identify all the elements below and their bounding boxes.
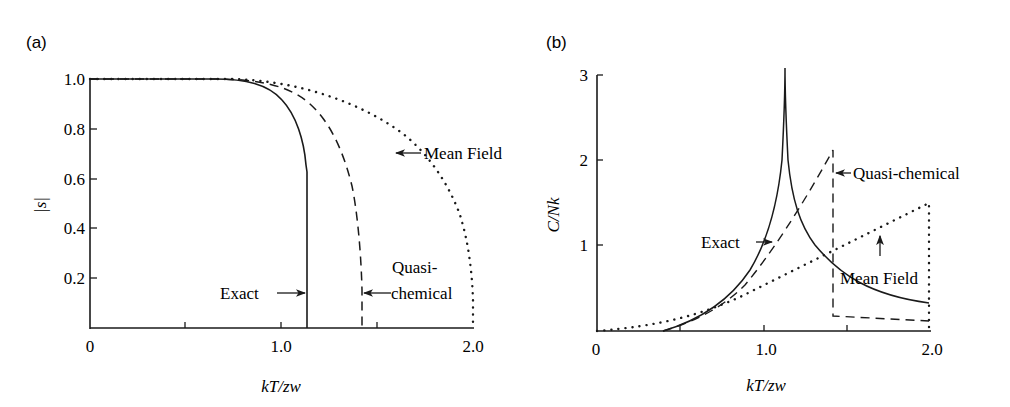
y-axis-label: C/Nk <box>544 197 563 232</box>
x-ticks <box>680 325 847 331</box>
y-tick-labels: 1.0 0.8 0.6 0.4 0.2 <box>64 70 86 288</box>
quasi-annotation-line2: chemical <box>391 284 453 303</box>
y-ticks <box>90 79 97 278</box>
exact-curve <box>663 68 929 331</box>
exact-annotation: Exact <box>701 233 740 252</box>
y-tick-labels: 3 2 1 <box>580 66 589 255</box>
x-tick-label: 1.0 <box>270 337 291 356</box>
x-tick-label: 0 <box>86 337 95 356</box>
y-tick-label: 3 <box>580 66 589 85</box>
y-tick-label: 0.8 <box>64 120 85 139</box>
y-tick-label: 1.0 <box>64 70 85 89</box>
panel-a-label: (a) <box>26 33 47 52</box>
mean-field-annotation: Mean Field <box>424 144 502 163</box>
x-tick-label: 2.0 <box>921 340 942 359</box>
panel-a: (a) 1.0 0.8 0.6 0.4 0.2 0 1.0 2.0 <box>26 33 502 396</box>
x-tick-label: 0 <box>592 340 601 359</box>
quasi-annotation: Quasi-chemical <box>853 164 960 183</box>
x-tick-label: 1.0 <box>755 340 776 359</box>
x-tick-label: 2.0 <box>462 337 483 356</box>
mean-field-curve <box>597 203 929 331</box>
panel-b: (b) 3 2 1 0 1.0 2.0 kT/zw C/Nk <box>544 33 960 395</box>
x-tick-labels: 0 1.0 2.0 <box>592 340 943 359</box>
x-axis-label: kT/zw <box>746 376 786 395</box>
y-tick-label: 0.2 <box>64 269 85 288</box>
panel-b-label: (b) <box>546 33 567 52</box>
y-ticks <box>597 75 603 245</box>
exact-curve <box>90 79 307 328</box>
x-tick-labels: 0 1.0 2.0 <box>86 337 484 356</box>
figure: (a) 1.0 0.8 0.6 0.4 0.2 0 1.0 2.0 <box>0 0 1010 407</box>
x-axis-label: kT/zw <box>261 377 301 396</box>
mean-field-annotation: Mean Field <box>840 269 918 288</box>
y-tick-label: 2 <box>580 151 589 170</box>
x-ticks <box>185 322 377 328</box>
y-tick-label: 1 <box>580 236 589 255</box>
quasi-annotation-line1: Quasi- <box>392 258 438 277</box>
y-axis-label: |s| <box>31 197 50 213</box>
exact-annotation: Exact <box>220 284 259 303</box>
y-tick-label: 0.6 <box>64 170 85 189</box>
y-tick-label: 0.4 <box>64 219 86 238</box>
